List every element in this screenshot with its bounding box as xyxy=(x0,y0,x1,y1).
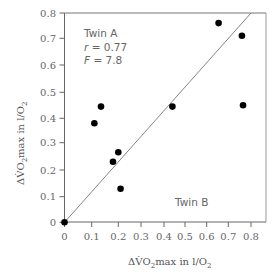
x-tick-label: 0.6 xyxy=(199,231,215,242)
y-tick-label: 0.2 xyxy=(40,165,56,176)
scatter-chart: 00.10.20.30.40.50.60.70.8 00.10.20.30.40… xyxy=(0,0,278,275)
y-tick-label: 0.5 xyxy=(40,87,56,98)
data-point xyxy=(110,159,117,166)
data-point xyxy=(115,149,122,156)
y-tick-label: 0.1 xyxy=(40,191,56,202)
annotation-f: F = 7.8 xyxy=(84,54,122,66)
x-tick-label: 0.3 xyxy=(133,231,149,242)
annotation-twin-a: Twin A xyxy=(83,27,118,39)
x-tick-label: 0.5 xyxy=(177,231,193,242)
data-point xyxy=(169,103,176,110)
data-point xyxy=(240,102,247,109)
x-tick-label: 0.2 xyxy=(110,231,126,242)
y-tick-label: 0 xyxy=(50,217,56,228)
data-point xyxy=(91,120,98,127)
y-axis-title: ΔV̇O2max in l/O2 xyxy=(15,102,29,185)
data-point xyxy=(239,32,246,39)
x-tick-label: 0.1 xyxy=(84,231,100,242)
y-tick-label: 0.7 xyxy=(40,33,56,44)
y-tick-label: 0.3 xyxy=(40,137,56,148)
data-point xyxy=(61,219,68,226)
x-tick-label: 0 xyxy=(61,231,67,242)
data-point xyxy=(117,185,124,192)
x-tick-label: 0.4 xyxy=(156,231,172,242)
annotation-r: r = 0.77 xyxy=(84,41,127,53)
y-tick-label: 0.6 xyxy=(40,60,56,71)
y-tick-label: 0.8 xyxy=(40,8,56,19)
y-axis: 00.10.20.30.40.50.60.70.8 xyxy=(40,8,64,228)
y-tick-label: 0.4 xyxy=(40,113,56,124)
data-point xyxy=(215,20,222,27)
data-point xyxy=(98,103,105,110)
annotation-twin-b: Twin B xyxy=(174,196,208,208)
x-tick-label: 0.7 xyxy=(220,231,236,242)
x-axis: 00.10.20.30.40.50.60.70.8 xyxy=(61,222,259,242)
x-tick-label: 0.8 xyxy=(243,231,259,242)
x-axis-title: ΔV̇O2max in l/O2 xyxy=(128,256,211,270)
